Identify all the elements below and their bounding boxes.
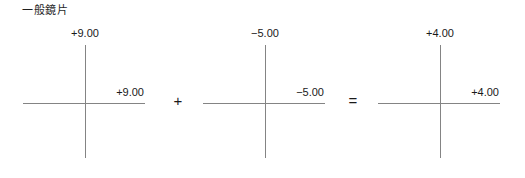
vertical-power-value: +4.00 [426, 27, 454, 39]
horizontal-power-label: −5.00 [185, 86, 324, 99]
vertical-power-label: −5.00 [185, 27, 345, 40]
vertical-power-label: +4.00 [360, 27, 520, 40]
lens-cross-second: −5.00 −5.00 [185, 0, 345, 178]
vertical-meridian-line [85, 45, 86, 158]
vertical-power-value: +9.00 [71, 27, 99, 39]
horizontal-power-label: +4.00 [360, 86, 499, 99]
optical-cross-figure: 一般鏡片 +9.00 +9.00 + −5.00 −5.00 = +4.00 +… [0, 0, 525, 178]
horizontal-meridian-line [203, 103, 325, 104]
lens-cross-first: +9.00 +9.00 [5, 0, 165, 178]
vertical-meridian-line [440, 45, 441, 158]
horizontal-power-label: +9.00 [5, 86, 144, 99]
vertical-meridian-line [265, 45, 266, 158]
vertical-power-value: −5.00 [251, 27, 279, 39]
vertical-power-label: +9.00 [5, 27, 165, 40]
lens-cross-result: +4.00 +4.00 [360, 0, 520, 178]
horizontal-meridian-line [23, 103, 145, 104]
horizontal-meridian-line [378, 103, 500, 104]
